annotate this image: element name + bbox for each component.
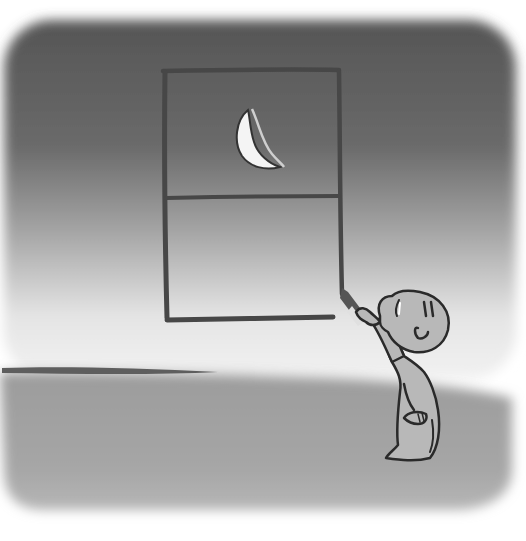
window-crossbar [166, 196, 339, 198]
illustration [0, 0, 526, 541]
